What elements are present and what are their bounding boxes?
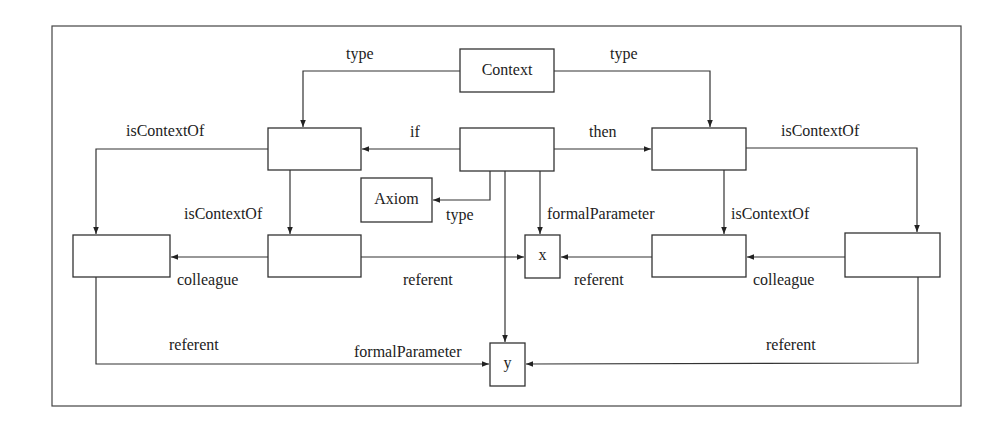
node-if-context — [268, 128, 361, 170]
edge-type-axiom — [433, 171, 490, 200]
label-colleague-right: colleague — [753, 271, 814, 289]
edge-referent-right-y — [526, 277, 918, 364]
node-axiom: Axiom — [361, 178, 432, 222]
node-if-colleague — [73, 235, 170, 277]
context-diagram: Context Axiom x y type type if then isCo… — [0, 0, 1008, 427]
label-if: if — [410, 123, 420, 140]
label-iscontextof-left-inner: isContextOf — [184, 205, 263, 222]
label-iscontextof-left-outer: isContextOf — [126, 122, 205, 139]
label-then: then — [589, 123, 617, 140]
label-referent-left-x: referent — [403, 271, 453, 288]
node-then-colleague — [845, 233, 940, 277]
node-context-label: Context — [482, 61, 533, 78]
edge-type-left — [303, 71, 460, 127]
label-referent-right-y: referent — [766, 336, 816, 353]
label-referent-right-x: referent — [574, 271, 624, 288]
node-if-inner — [268, 235, 361, 277]
label-formalparameter-x: formalParameter — [547, 205, 655, 222]
label-type-right: type — [610, 45, 638, 63]
node-then-inner — [652, 235, 746, 277]
node-x: x — [525, 235, 560, 278]
edge-type-right — [554, 71, 710, 127]
node-rule — [460, 128, 554, 171]
node-then-context — [652, 128, 746, 170]
label-type-left: type — [346, 45, 374, 63]
node-y-label: y — [504, 354, 512, 372]
label-type-axiom: type — [446, 206, 474, 224]
label-formalparameter-y: formalParameter — [354, 343, 462, 360]
label-colleague-left: colleague — [177, 271, 238, 289]
node-y: y — [490, 343, 525, 386]
node-x-label: x — [539, 246, 547, 263]
label-iscontextof-right-inner: isContextOf — [731, 205, 810, 222]
node-axiom-label: Axiom — [374, 190, 419, 207]
label-iscontextof-right-outer: isContextOf — [781, 122, 860, 139]
node-context: Context — [460, 49, 554, 92]
label-referent-left-y: referent — [169, 336, 219, 353]
